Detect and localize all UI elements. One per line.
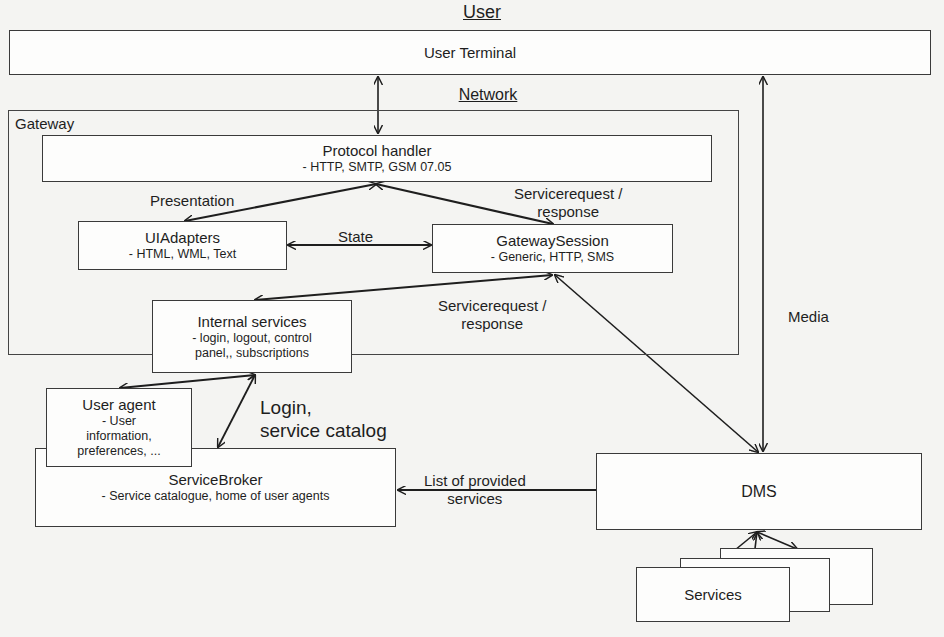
user-agent-subtitle-3: preferences, ... xyxy=(47,444,191,459)
label-list-2: services xyxy=(424,490,526,508)
label-list-of-services: List of provided services xyxy=(424,472,526,508)
label-login-2: service catalog xyxy=(260,419,387,442)
network-heading: Network xyxy=(459,86,518,104)
label-login: Login, service catalog xyxy=(260,396,387,442)
user-agent-title: User agent xyxy=(47,396,191,414)
label-servicerequest-top-2: response xyxy=(514,203,622,221)
ui-adapters-subtitle: - HTML, WML, Text xyxy=(79,247,286,262)
label-servicerequest-mid-2: response xyxy=(438,315,546,333)
ui-adapters-box: UIAdapters - HTML, WML, Text xyxy=(78,221,287,270)
gateway-session-subtitle: - Generic, HTTP, SMS xyxy=(433,250,672,265)
protocol-handler-box: Protocol handler - HTTP, SMTP, GSM 07.05 xyxy=(42,135,712,182)
edge-dms-services-3 xyxy=(757,532,797,549)
label-media: Media xyxy=(788,308,829,326)
gateway-session-title: GatewaySession xyxy=(433,232,672,250)
user-agent-subtitle-1: - User xyxy=(47,414,191,429)
services-box-front: Services xyxy=(636,567,790,622)
user-terminal-label: User Terminal xyxy=(10,44,930,62)
internal-services-subtitle-1: - login, logout, control xyxy=(153,331,351,346)
protocol-handler-title: Protocol handler xyxy=(43,142,711,160)
label-presentation: Presentation xyxy=(150,192,234,210)
ui-adapters-title: UIAdapters xyxy=(79,229,286,247)
label-servicerequest-mid: Servicerequest / response xyxy=(438,297,546,333)
user-agent-box: User agent - User information, preferenc… xyxy=(46,388,192,467)
label-login-1: Login, xyxy=(260,396,387,419)
label-state: State xyxy=(338,228,373,246)
internal-services-subtitle-2: panel,, subscriptions xyxy=(153,346,351,361)
label-servicerequest-top: Servicerequest / response xyxy=(514,185,622,221)
service-broker-title: ServiceBroker xyxy=(36,471,395,489)
edge-internal-useragent xyxy=(120,375,255,388)
gateway-session-box: GatewaySession - Generic, HTTP, SMS xyxy=(432,224,673,273)
user-agent-subtitle-2: information, xyxy=(47,429,191,444)
label-servicerequest-mid-1: Servicerequest / xyxy=(438,297,546,315)
edge-login xyxy=(218,375,255,447)
user-heading: User xyxy=(463,2,501,23)
dms-label: DMS xyxy=(597,483,921,501)
dms-box: DMS xyxy=(596,453,922,530)
user-terminal-box: User Terminal xyxy=(9,30,931,75)
services-label: Services xyxy=(637,586,789,604)
internal-services-title: Internal services xyxy=(153,313,351,331)
internal-services-box: Internal services - login, logout, contr… xyxy=(152,300,352,373)
label-list-1: List of provided xyxy=(424,472,526,490)
label-servicerequest-top-1: Servicerequest / xyxy=(514,185,622,203)
gateway-label: Gateway xyxy=(15,115,74,133)
service-broker-subtitle: - Service catalogue, home of user agents xyxy=(36,489,395,504)
protocol-handler-subtitle: - HTTP, SMTP, GSM 07.05 xyxy=(43,160,711,175)
